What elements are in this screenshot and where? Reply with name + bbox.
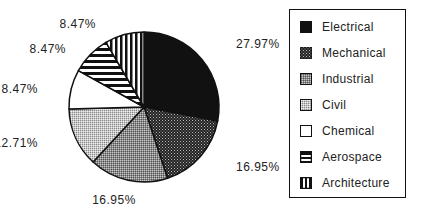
slice-label-electrical: 27.97%: [236, 37, 280, 51]
slice-label-civil: 12.71%: [0, 136, 38, 150]
pie-chart: 27.97%16.95%16.95%12.71%8.47%8.47%8.47%: [0, 0, 285, 216]
legend-item-civil: Civil: [300, 97, 346, 113]
chart-legend: Electrical Mechanical Industrial Civil C…: [289, 9, 406, 198]
slice-label-architecture: 8.47%: [59, 17, 96, 31]
slice-label-industrial: 16.95%: [92, 193, 136, 207]
legend-label: Mechanical: [322, 46, 386, 60]
legend-item-architecture: Architecture: [300, 175, 390, 191]
slice-label-mechanical: 16.95%: [236, 160, 280, 174]
legend-swatch-mechanical: [300, 47, 312, 59]
legend-swatch-architecture: [300, 177, 312, 189]
slice-label-chemical: 8.47%: [1, 82, 38, 96]
slice-label-aerospace: 8.47%: [29, 42, 66, 56]
legend-item-aerospace: Aerospace: [300, 149, 382, 165]
legend-swatch-chemical: [300, 125, 312, 137]
legend-swatch-civil: [300, 99, 312, 111]
legend-swatch-aerospace: [300, 151, 312, 163]
legend-item-chemical: Chemical: [300, 123, 374, 139]
legend-swatch-electrical: [300, 21, 312, 33]
legend-item-electrical: Electrical: [300, 19, 374, 35]
legend-label: Civil: [322, 98, 346, 112]
legend-label: Chemical: [322, 124, 374, 138]
legend-label: Architecture: [322, 176, 390, 190]
legend-label: Industrial: [322, 72, 374, 86]
legend-item-industrial: Industrial: [300, 71, 374, 87]
legend-swatch-industrial: [300, 73, 312, 85]
legend-item-mechanical: Mechanical: [300, 45, 386, 61]
legend-label: Electrical: [322, 20, 374, 34]
legend-label: Aerospace: [322, 150, 382, 164]
pie-slice-electrical: [144, 32, 219, 121]
